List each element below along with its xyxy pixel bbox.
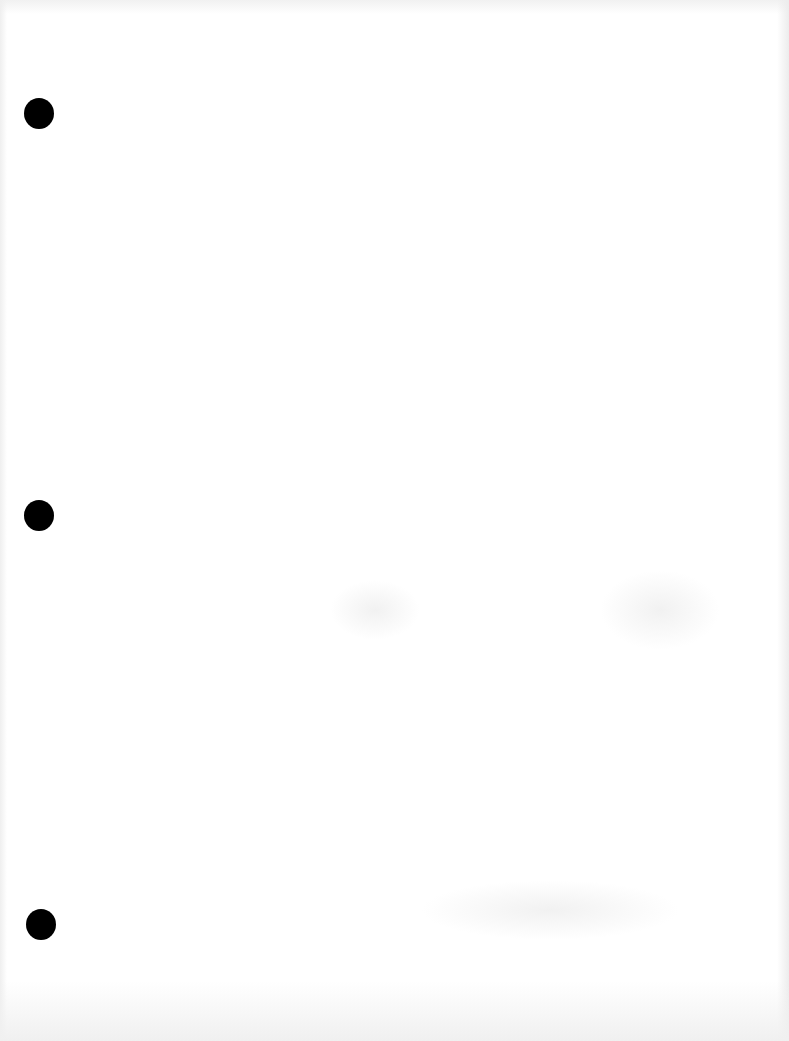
scan-edge-shadow-top — [0, 0, 789, 14]
scan-edge-shadow-left — [0, 0, 7, 1041]
page-body — [80, 40, 760, 1000]
scanned-page — [0, 0, 789, 1041]
punch-hole-top — [24, 98, 54, 129]
scan-edge-shadow-right — [777, 0, 789, 1041]
punch-hole-middle — [24, 500, 54, 531]
punch-hole-bottom — [26, 909, 56, 940]
